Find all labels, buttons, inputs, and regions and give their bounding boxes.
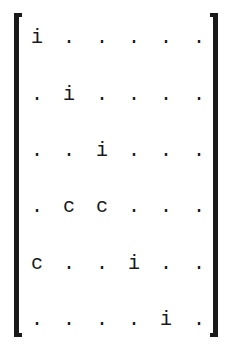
left-bracket: [14, 13, 22, 337]
matrix-cell: .: [187, 83, 211, 107]
matrix-cell: i: [122, 252, 146, 276]
matrix-cell: .: [154, 26, 178, 50]
matrix-cell: .: [25, 83, 49, 107]
matrix-cell: .: [122, 139, 146, 163]
matrix-cell: c: [25, 252, 49, 276]
matrix-cell: .: [154, 195, 178, 219]
matrix-cell: .: [25, 195, 49, 219]
matrix-cell: .: [25, 308, 49, 332]
matrix-cell: .: [122, 195, 146, 219]
matrix-cell: i: [25, 26, 49, 50]
sparsity-matrix: i . . . . . . i . . . . . . i . . . . c …: [0, 0, 241, 348]
matrix-cell: .: [90, 83, 114, 107]
matrix-cell: .: [90, 252, 114, 276]
matrix-cell: .: [122, 26, 146, 50]
matrix-cell: .: [122, 308, 146, 332]
matrix-cell: i: [57, 83, 81, 107]
matrix-cell: .: [154, 252, 178, 276]
matrix-cell: .: [57, 139, 81, 163]
matrix-cell: .: [57, 252, 81, 276]
matrix-cell: .: [187, 308, 211, 332]
matrix-cell: .: [187, 252, 211, 276]
matrix-cell: .: [154, 139, 178, 163]
matrix-cell: .: [187, 195, 211, 219]
matrix-cell: i: [154, 308, 178, 332]
matrix-cell: .: [25, 139, 49, 163]
matrix-cell: .: [90, 308, 114, 332]
matrix-cell: .: [187, 26, 211, 50]
matrix-cell: c: [90, 195, 114, 219]
matrix-cell: .: [57, 26, 81, 50]
matrix-cell: .: [154, 83, 178, 107]
matrix-cell: .: [122, 83, 146, 107]
matrix-cell: .: [187, 139, 211, 163]
right-bracket: [210, 13, 218, 337]
matrix-cell: .: [57, 308, 81, 332]
matrix-cell: i: [90, 139, 114, 163]
matrix-cell: .: [90, 26, 114, 50]
matrix-cell: c: [57, 195, 81, 219]
